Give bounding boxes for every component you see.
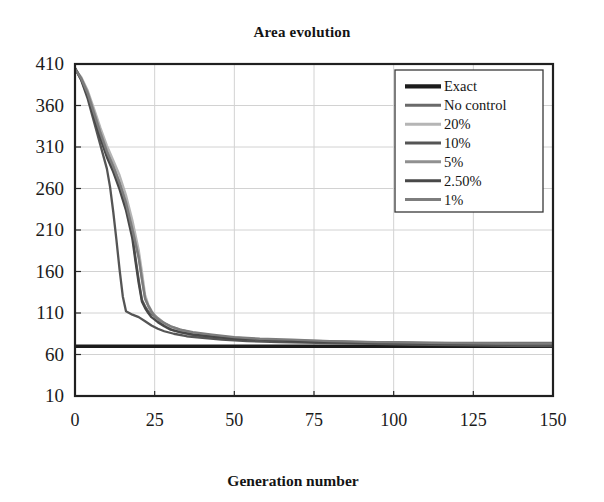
x-axis-title: Generation number [0,472,586,490]
y-tick-label: 260 [6,178,64,200]
chart-canvas: Area evolution 1060110160210260310360410… [0,0,604,502]
y-tick-label: 360 [6,95,64,117]
y-tick-label: 110 [6,302,64,324]
y-tick-label: 210 [6,219,64,241]
legend-item-label: Exact [444,78,477,95]
legend-item-label: 20% [444,116,471,133]
y-tick-label: 60 [6,344,64,366]
y-tick-label: 160 [6,261,64,283]
x-tick-label: 125 [443,410,503,431]
x-tick-label: 0 [45,410,105,431]
x-tick-label: 100 [364,410,424,431]
legend-item-label: 5% [444,153,463,170]
x-tick-label: 75 [284,410,344,431]
legend-item-label: 1% [444,191,463,208]
x-tick-label: 25 [125,410,185,431]
y-tick-label: 10 [6,385,64,407]
y-tick-label: 310 [6,136,64,158]
x-tick-label: 50 [204,410,264,431]
y-tick-label: 410 [6,53,64,75]
x-tick-label: 150 [523,410,583,431]
legend-item-label: No control [444,97,506,114]
legend-item-label: 10% [444,135,471,152]
legend-item-label: 2.50% [444,172,481,189]
